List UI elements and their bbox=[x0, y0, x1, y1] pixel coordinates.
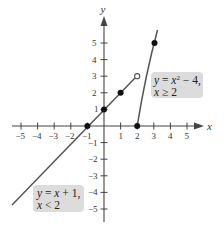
x-axis-arrow-icon bbox=[194, 123, 204, 130]
label-box-linear: y = x + 1, x < 2 bbox=[33, 185, 84, 212]
point-1-2 bbox=[118, 90, 124, 96]
point-2-0 bbox=[134, 123, 140, 129]
svg-text:2: 2 bbox=[92, 88, 97, 98]
svg-text:2: 2 bbox=[135, 131, 140, 141]
svg-text:−5: −5 bbox=[88, 204, 98, 214]
svg-text:1: 1 bbox=[119, 131, 124, 141]
piecewise-function-graph: x y −5 −4 −3 −2 −1 1 2 3 4 5 bbox=[0, 0, 224, 234]
svg-text:4: 4 bbox=[168, 131, 173, 141]
open-endpoint-2-3 bbox=[135, 74, 140, 79]
svg-text:x ≥ 2: x ≥ 2 bbox=[153, 86, 177, 98]
svg-text:x < 2: x < 2 bbox=[36, 199, 60, 211]
svg-text:4: 4 bbox=[92, 55, 97, 65]
point-neg1-0 bbox=[84, 123, 90, 129]
svg-text:−4: −4 bbox=[88, 187, 98, 197]
x-tick-labels: −5 −4 −3 −2 −1 1 2 3 4 5 bbox=[16, 131, 190, 141]
y-axis-label: y bbox=[100, 3, 106, 15]
svg-text:5: 5 bbox=[185, 131, 190, 141]
point-0-1 bbox=[101, 106, 107, 112]
svg-text:−1: −1 bbox=[88, 138, 98, 148]
svg-text:−2: −2 bbox=[88, 154, 98, 164]
svg-text:5: 5 bbox=[92, 38, 97, 48]
svg-text:3: 3 bbox=[92, 71, 97, 81]
svg-text:−2: −2 bbox=[65, 131, 75, 141]
svg-text:−3: −3 bbox=[49, 131, 59, 141]
y-axis-arrow-icon bbox=[101, 16, 108, 26]
svg-text:−4: −4 bbox=[32, 131, 42, 141]
svg-text:−3: −3 bbox=[88, 171, 98, 181]
x-axis-label: x bbox=[206, 120, 212, 132]
svg-text:3: 3 bbox=[152, 131, 157, 141]
label-box-parabola: y = x2 − 4, x ≥ 2 bbox=[151, 72, 203, 98]
svg-text:−5: −5 bbox=[16, 131, 26, 141]
svg-text:1: 1 bbox=[94, 104, 99, 114]
point-3-5 bbox=[152, 40, 158, 46]
